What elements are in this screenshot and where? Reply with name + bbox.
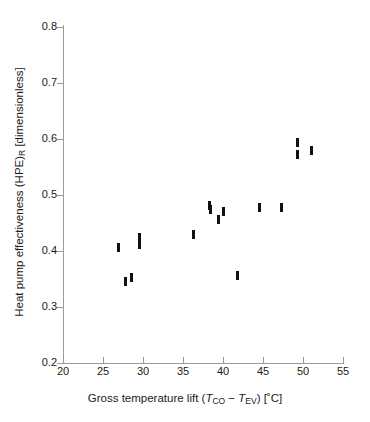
data-point bbox=[296, 138, 299, 147]
x-title-tail: ) [˚C] bbox=[257, 392, 283, 404]
data-point bbox=[117, 243, 120, 252]
data-point bbox=[236, 271, 239, 280]
x-title-lead: Gross temperature lift ( bbox=[88, 392, 206, 404]
x-axis-title: Gross temperature lift (TCO − TEV) [˚C] bbox=[0, 392, 370, 406]
y-title-tail: [dimensionless] bbox=[13, 67, 25, 149]
data-point bbox=[217, 215, 220, 224]
x-title-sub-co: CO bbox=[212, 396, 225, 406]
data-point bbox=[222, 207, 225, 216]
y-title-sub-r: R bbox=[17, 150, 27, 156]
data-point bbox=[138, 233, 141, 242]
y-axis-title: Heat pump effectiveness (HPE)R [dimensio… bbox=[13, 22, 27, 362]
data-point bbox=[310, 146, 313, 155]
data-point bbox=[124, 277, 127, 286]
data-point bbox=[192, 230, 195, 239]
scatter-plot-figure: 0.80.70.60.50.40.30.2 2025303540455055 G… bbox=[0, 0, 370, 422]
x-title-minus: − bbox=[225, 392, 238, 404]
data-point bbox=[258, 203, 261, 212]
data-points-layer bbox=[0, 0, 370, 422]
data-point bbox=[280, 203, 283, 212]
data-point bbox=[130, 273, 133, 282]
data-point bbox=[296, 150, 299, 159]
data-point bbox=[138, 240, 141, 249]
data-point bbox=[209, 205, 212, 214]
y-title-lead: Heat pump effectiveness (HPE) bbox=[13, 156, 25, 317]
x-title-sub-ev: EV bbox=[245, 396, 256, 406]
